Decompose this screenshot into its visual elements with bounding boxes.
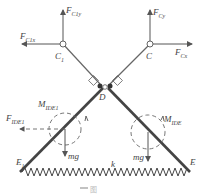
label-mide: MIDE xyxy=(164,115,182,126)
label-e1: E1 xyxy=(16,158,25,169)
label-e: E xyxy=(190,158,196,167)
link-c-d xyxy=(110,44,150,84)
joint-c1 xyxy=(60,41,66,47)
label-fcx: FCx xyxy=(175,48,187,59)
moment-mide1-arrowhead xyxy=(85,116,88,121)
label-c: C xyxy=(146,52,152,61)
label-k: k xyxy=(111,160,115,169)
joint-d xyxy=(103,85,108,90)
label-mg-left: mg xyxy=(68,152,79,161)
bar-d-e xyxy=(108,88,190,172)
label-fc1x: FC1x xyxy=(20,32,35,43)
figure-caption: 图 xyxy=(90,184,97,194)
label-d: D xyxy=(99,93,106,102)
spring-k xyxy=(22,168,189,176)
label-mide1: MIDE1 xyxy=(38,100,59,111)
label-fc1y: FC1y xyxy=(66,6,81,17)
joint-c xyxy=(147,41,153,47)
label-mg-right: mg xyxy=(133,153,144,162)
joint-d-right xyxy=(108,84,113,89)
bar-d-e1 xyxy=(20,88,103,172)
link-c1-d xyxy=(63,44,100,84)
label-fcy: FCy xyxy=(153,8,165,19)
label-c1: C1 xyxy=(55,52,64,63)
label-fide1: FIDE1 xyxy=(6,114,25,125)
joint-d-left xyxy=(98,84,103,89)
